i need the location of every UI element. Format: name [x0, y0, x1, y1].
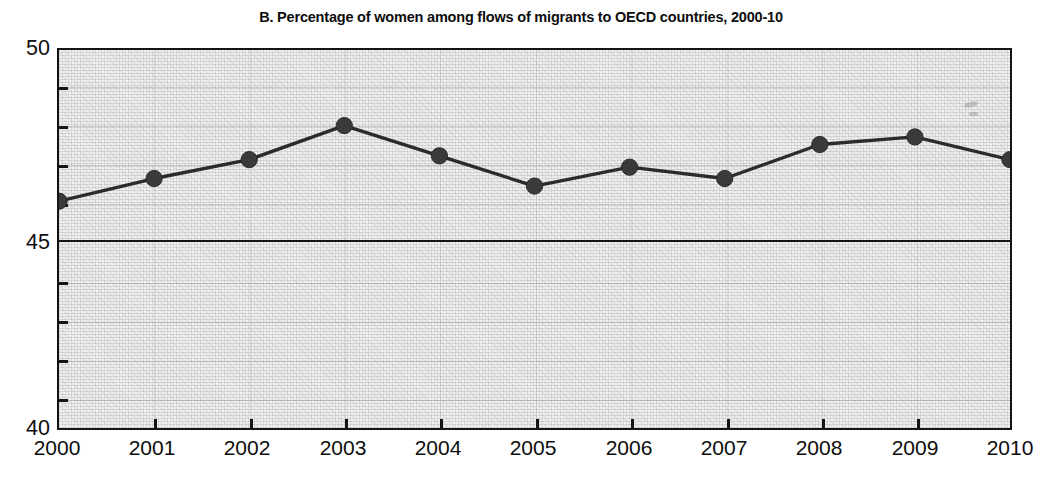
chart-figure: B. Percentage of women among flows of mi…: [0, 0, 1042, 489]
chart-title: B. Percentage of women among flows of mi…: [0, 9, 1042, 25]
data-series-layer: [59, 50, 1010, 428]
x-axis-tick-label-2001: 2001: [107, 437, 197, 458]
data-point-2008: [812, 136, 828, 152]
data-point-2009: [907, 129, 923, 145]
x-axis-tick-label-2006: 2006: [584, 437, 674, 458]
x-axis-tick-label-2000: 2000: [12, 437, 102, 458]
data-point-2002: [241, 152, 257, 168]
x-axis-tick-label-2008: 2008: [774, 437, 864, 458]
x-axis-tick-label-2005: 2005: [488, 437, 578, 458]
x-axis-tick-label-2010: 2010: [965, 437, 1042, 458]
plot-area: [57, 48, 1012, 430]
data-point-2004: [431, 148, 447, 164]
data-point-2005: [526, 178, 542, 194]
y-axis-tick-label-45: 45: [2, 232, 50, 254]
data-point-2006: [621, 159, 637, 175]
x-axis-tick-label-2004: 2004: [393, 437, 483, 458]
data-point-2007: [717, 170, 733, 186]
data-point-2010: [1002, 152, 1012, 168]
y-axis-tick-label-50: 50: [2, 38, 50, 60]
x-axis-tick-label-2003: 2003: [298, 437, 388, 458]
data-point-2001: [146, 170, 162, 186]
series-markers: [57, 117, 1012, 209]
data-point-2003: [336, 117, 352, 133]
data-point-2000: [57, 193, 67, 209]
x-axis-tick-label-2002: 2002: [202, 437, 292, 458]
x-axis-tick-label-2009: 2009: [870, 437, 960, 458]
x-axis-tick-label-2007: 2007: [679, 437, 769, 458]
